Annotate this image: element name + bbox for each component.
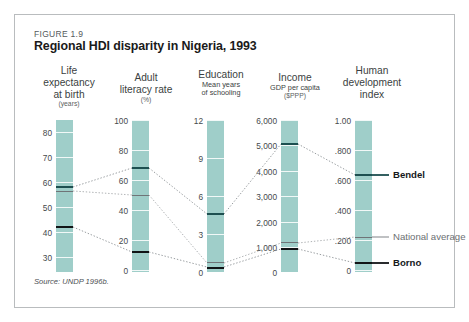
axis-tick: 60: [99, 176, 128, 186]
axis-tick: .600: [317, 176, 351, 186]
axis-tick: 40: [24, 228, 52, 238]
axis-tick: 2,000: [237, 218, 277, 228]
marker-borno-hdi: [355, 262, 372, 264]
scale-bar-life-expectancy: [56, 120, 73, 272]
marker-national-adult-literacy: [132, 195, 149, 196]
axis-gridline: [281, 222, 298, 223]
marker-national-income: [281, 242, 298, 243]
axis-tick: 30: [24, 253, 52, 263]
axis-title-hdi: Human development index: [327, 65, 417, 100]
axis-tick: 6: [177, 192, 203, 202]
legend-label-borno: Borno: [393, 257, 421, 268]
axis-gridline: [355, 120, 372, 121]
axis-tick: .800: [317, 146, 351, 156]
axis-gridline: [281, 171, 298, 172]
axis-gridline: [355, 240, 372, 241]
connector-national: [149, 195, 207, 263]
axis-tick: 1.00: [317, 116, 351, 126]
axis-tick: .200: [317, 236, 351, 246]
marker-borno-life-expectancy: [56, 226, 73, 228]
axis-gridline: [56, 257, 73, 258]
axis-tick: 70: [24, 153, 52, 163]
chart-plot-area: Life expectancy at birth (years) Adult l…: [15, 15, 456, 309]
axis-title-adult-literacy: Adult literacy rate (%): [103, 72, 189, 104]
marker-bendel-hdi: [355, 174, 372, 176]
axis-title-line: literacy rate: [103, 84, 189, 96]
marker-borno-education: [207, 267, 224, 269]
axis-title-line: at birth: [27, 89, 111, 101]
axis-gridline: [132, 240, 149, 241]
axis-gridline: [56, 232, 73, 233]
axis-title-life-expectancy: Life expectancy at birth (years): [27, 65, 111, 108]
axis-gridline: [355, 150, 372, 151]
axis-title-income: Income GDP per capita ($PPP): [253, 72, 337, 100]
axis-gridline: [132, 150, 149, 151]
axis-gridline: [132, 270, 149, 271]
connector-borno: [298, 249, 355, 263]
axis-gridline: [56, 157, 73, 158]
axis-gridline: [207, 272, 224, 273]
axis-title-line: development: [327, 77, 417, 89]
axis-tick: 0: [237, 268, 277, 278]
axis-gridline: [132, 120, 149, 121]
legend-label-national: National average: [393, 231, 466, 242]
axis-title-line: Human: [327, 65, 417, 77]
axis-tick: 3: [177, 230, 203, 240]
marker-national-life-expectancy: [56, 191, 73, 192]
axis-tick: 50: [24, 203, 52, 213]
axis-tick: .400: [317, 206, 351, 216]
axis-unit: (years): [27, 100, 111, 108]
axis-gridline: [355, 270, 372, 271]
axis-tick: 0: [317, 266, 351, 276]
axis-title-line: index: [327, 89, 417, 101]
axis-unit: ($PPP): [253, 92, 337, 100]
axis-gridline: [355, 210, 372, 211]
source-note: Source: UNDP 1996b.: [34, 277, 109, 286]
axis-tick: 6,000: [237, 116, 277, 126]
axis-unit: (%): [103, 96, 189, 104]
connector-lines: [15, 15, 456, 309]
axis-gridline: [132, 210, 149, 211]
axis-title-education: Education Mean years of schooling: [179, 69, 263, 98]
axis-tick: 3,000: [237, 192, 277, 202]
axis-tick: 100: [99, 116, 128, 126]
marker-national-education: [207, 262, 224, 263]
axis-gridline: [281, 272, 298, 273]
axis-title-line: Adult: [103, 72, 189, 84]
axis-gridline: [207, 196, 224, 197]
axis-title-line: expectancy: [27, 77, 111, 89]
axis-gridline: [56, 207, 73, 208]
marker-national-hdi: [355, 237, 372, 238]
marker-borno-adult-literacy: [132, 251, 149, 253]
axis-tick: 4,000: [237, 167, 277, 177]
axis-title-line: Life: [27, 65, 111, 77]
figure-card: FIGURE 1.9 Regional HDI disparity in Nig…: [14, 14, 455, 308]
scale-bar-hdi: [355, 120, 372, 272]
axis-subtitle-line: GDP per capita: [253, 84, 337, 92]
axis-gridline: [207, 120, 224, 121]
axis-gridline: [355, 180, 372, 181]
axis-gridline: [132, 180, 149, 181]
marker-bendel-income: [281, 143, 298, 145]
axis-tick: 5,000: [237, 141, 277, 151]
axis-subtitle-line: of schooling: [179, 89, 263, 97]
axis-tick: 60: [24, 178, 52, 188]
legend-label-bendel: Bendel: [393, 169, 425, 180]
axis-tick: 0: [177, 268, 203, 278]
marker-borno-income: [281, 248, 298, 250]
axis-tick: 20: [99, 236, 128, 246]
axis-tick: 80: [24, 128, 52, 138]
axis-gridline: [207, 158, 224, 159]
axis-tick: 40: [99, 206, 128, 216]
axis-gridline: [207, 234, 224, 235]
axis-tick: 12: [177, 116, 203, 126]
axis-gridline: [56, 182, 73, 183]
marker-bendel-education: [207, 213, 224, 215]
connector-borno: [149, 252, 207, 267]
axis-tick: 1,000: [237, 243, 277, 253]
axis-gridline: [56, 132, 73, 133]
connector-bendel: [149, 168, 207, 214]
axis-tick: 9: [177, 154, 203, 164]
marker-bendel-adult-literacy: [132, 167, 149, 169]
axis-tick: 80: [99, 146, 128, 156]
